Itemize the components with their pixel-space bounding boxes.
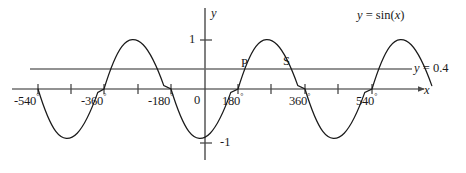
reference-line-label: y = 0.4	[414, 62, 449, 75]
point-label-s: S	[283, 55, 290, 68]
x-tick-label-360: 360°	[289, 94, 310, 108]
origin-label: 0	[194, 94, 200, 107]
x-tick-label-neg180: -180°	[148, 94, 173, 108]
x-tick-label-neg360: -360°	[81, 94, 106, 108]
x-axis-label: x	[424, 84, 430, 97]
y-axis-label: y	[211, 7, 217, 20]
x-tick-label-540: 540°	[356, 94, 377, 108]
y-tick-label-1: 1	[189, 33, 195, 46]
x-tick-label-neg540: -540°	[14, 94, 39, 108]
y-ticks	[200, 40, 212, 143]
point-label-p: P	[241, 57, 248, 70]
x-tick-label-180: 180°	[222, 94, 243, 108]
sine-graph-figure: -540° -360° -180° 0 180° 360° 540° 1 -1 …	[0, 0, 466, 173]
plot-canvas	[0, 0, 466, 173]
curve-equation-label: y = sin(x)	[357, 9, 404, 22]
y-tick-label-neg1: -1	[220, 136, 230, 149]
